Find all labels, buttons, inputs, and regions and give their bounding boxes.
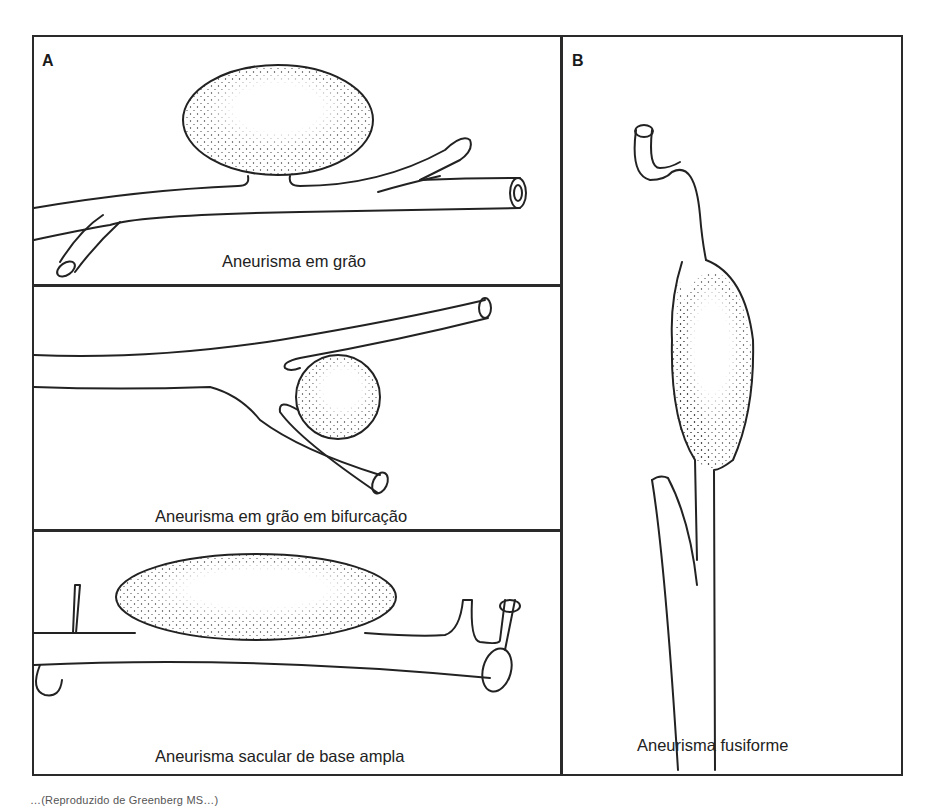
caption-berry-aneurysm: Aneurisma em grão [222,252,366,271]
fusiform-aneurysm-drawing [635,125,754,770]
caption-broad-based-aneurysm: Aneurisma sacular de base ampla [155,747,404,766]
broad-based-aneurysm-drawing [34,554,520,695]
caption-fusiform-aneurysm: Aneurisma fusiforme [637,736,788,755]
figure-source-line: …(Reproduzido de Greenberg MS…) [30,794,218,806]
bifurcation-aneurysm-drawing [34,298,491,496]
caption-bifurcation-aneurysm: Aneurisma em grão em bifurcação [155,507,407,526]
berry-aneurysm-drawing [34,65,526,280]
